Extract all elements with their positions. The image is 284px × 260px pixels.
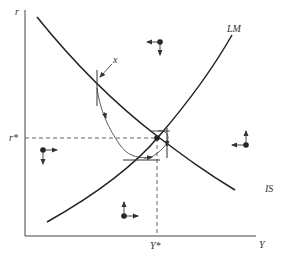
direction-marker-bottom bbox=[121, 202, 138, 219]
y-star-label: Y* bbox=[150, 241, 161, 251]
x-axis-label: Y bbox=[259, 240, 265, 250]
is-lm-diagram bbox=[0, 0, 284, 260]
r-star-label: r* bbox=[9, 133, 18, 143]
is-curve bbox=[37, 17, 235, 190]
is-curve-label: IS bbox=[265, 184, 273, 194]
x-pointer bbox=[100, 64, 112, 77]
equilibrium-point bbox=[154, 135, 160, 141]
lm-curve bbox=[47, 35, 232, 222]
path-start-label: x bbox=[113, 55, 117, 65]
adjustment-path bbox=[97, 88, 150, 158]
direction-marker-right bbox=[232, 131, 249, 148]
direction-marker-left bbox=[40, 147, 57, 164]
direction-marker-top bbox=[147, 39, 163, 55]
lm-curve-label: LM bbox=[227, 24, 241, 34]
y-axis-label: r bbox=[15, 7, 19, 17]
